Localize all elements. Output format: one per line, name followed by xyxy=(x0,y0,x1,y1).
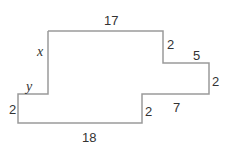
label-right-step: 5 xyxy=(193,48,200,63)
shape-diagram: 17 2 5 2 7 2 18 2 y x xyxy=(0,0,230,151)
label-right-lower: 2 xyxy=(212,74,219,89)
label-right-upper: 2 xyxy=(167,37,174,52)
label-left: 2 xyxy=(9,102,16,117)
label-inner-vertical: 2 xyxy=(145,104,152,119)
label-bottom: 18 xyxy=(82,130,96,145)
shape-outline xyxy=(18,31,209,123)
label-left-step: y xyxy=(24,79,33,94)
label-left-upper: x xyxy=(36,44,44,59)
label-bottom-step: 7 xyxy=(173,100,180,115)
label-top: 17 xyxy=(104,13,118,28)
